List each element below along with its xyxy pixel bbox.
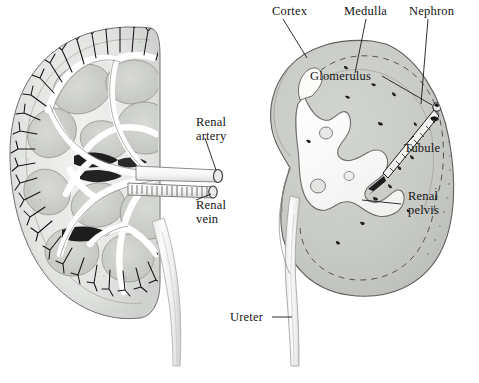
- label-renal-pelvis-line2: pelvis: [408, 203, 439, 217]
- label-cortex: Cortex: [272, 4, 308, 18]
- label-renal-vein-line2: vein: [196, 212, 219, 226]
- label-ureter: Ureter: [230, 310, 264, 324]
- minor-calyx: [320, 127, 333, 139]
- minor-calyx: [311, 179, 326, 193]
- label-renal-pelvis-line1: Renal: [408, 189, 438, 203]
- label-tubule: Tubule: [404, 141, 440, 155]
- kidney-anatomy-figure: Renal artery Renal vein Cortex Medulla N…: [0, 0, 479, 383]
- label-renal-artery-line1: Renal: [196, 115, 226, 129]
- label-glomerulus: Glomerulus: [310, 69, 371, 83]
- renal-artery-lumen: [214, 170, 223, 183]
- label-renal-vein-line1: Renal: [196, 198, 226, 212]
- label-renal-artery-line2: artery: [196, 129, 227, 143]
- label-nephron: Nephron: [409, 4, 455, 18]
- diagram-canvas: Renal artery Renal vein Cortex Medulla N…: [0, 0, 479, 383]
- label-medulla: Medulla: [344, 4, 387, 18]
- renal-vein-lumen: [209, 186, 217, 198]
- minor-calyx: [344, 172, 354, 181]
